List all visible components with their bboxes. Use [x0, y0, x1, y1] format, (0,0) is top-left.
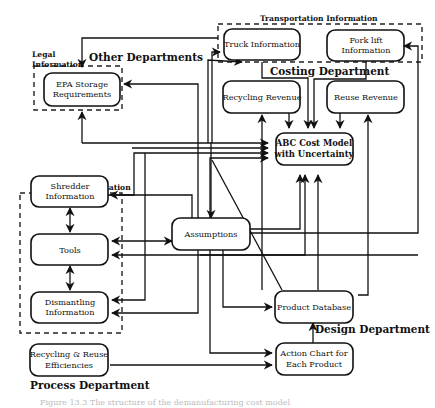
product-database-label: Product Database [277, 302, 351, 312]
node-forklift-information[interactable]: Fork lift Information [327, 30, 404, 61]
action-chart-line2: Each Product [286, 359, 343, 369]
node-epa-storage[interactable]: EPA Storage Requirements [44, 73, 120, 106]
efficiencies-line1: Recycling & Reuse [30, 349, 109, 359]
node-action-chart[interactable]: Action Chart for Each Product [276, 343, 353, 375]
tools-label: Tools [59, 245, 81, 255]
node-assumptions[interactable]: Assumptions [172, 218, 250, 250]
other-departments-label: Other Departments [89, 51, 203, 63]
dismantling-line1: Dismantling [45, 297, 95, 307]
node-abc-cost-model[interactable]: ABC Cost Model with Uncertainty [274, 133, 355, 165]
dismantling-line2: Information [45, 307, 95, 317]
recycling-revenue-label: Recycling Revenue [222, 92, 301, 102]
node-dismantling-information[interactable]: Dismantling Information [31, 292, 108, 323]
forklift-line1: Fork lift [349, 35, 383, 45]
abc-line1: ABC Cost Model [275, 138, 352, 148]
node-recycling-reuse-efficiencies[interactable]: Recycling & Reuse Efficiencies [30, 344, 109, 376]
process-department-label: Process Department [30, 379, 150, 391]
costing-department-label: Costing Department [270, 65, 389, 77]
edge-assumptions-dismantling [112, 250, 198, 313]
edge-abc-dismantling [112, 153, 145, 300]
epa-line2: Requirements [53, 89, 111, 99]
legal-information-label: Legal Information [32, 50, 84, 69]
node-shredder-information[interactable]: Shredder Information [31, 176, 108, 207]
shredder-line2: Information [45, 191, 95, 201]
node-truck-information[interactable]: Truck Information [224, 29, 301, 60]
transportation-information-label: Transportation Information [260, 14, 378, 23]
node-reuse-revenue[interactable]: Reuse Revenue [327, 81, 404, 113]
abc-line2: with Uncertainty [274, 149, 355, 159]
diagram-canvas: Legal Information Transportation Informa… [0, 0, 435, 408]
truck-line1: Truck Information [224, 39, 301, 49]
shredder-line1: Shredder [51, 181, 90, 191]
node-recycling-revenue[interactable]: Recycling Revenue [222, 81, 301, 113]
node-product-database[interactable]: Product Database [275, 291, 353, 323]
node-tools[interactable]: Tools [31, 234, 108, 265]
efficiencies-line2: Efficiencies [45, 360, 93, 370]
action-chart-line1: Action Chart for [279, 348, 347, 358]
figure-caption: Figure 13.3 The structure of the demanuf… [40, 398, 291, 407]
legal-label-line2: Information [32, 60, 84, 69]
edge-productdb-reuse [358, 115, 368, 295]
reuse-revenue-label: Reuse Revenue [334, 92, 398, 102]
legal-label-line1: Legal [32, 50, 55, 59]
edge-shredder-abc-2 [108, 153, 268, 195]
design-department-label: Design Department [315, 323, 430, 335]
assumptions-label: Assumptions [184, 229, 238, 239]
epa-line1: EPA Storage [56, 79, 108, 89]
forklift-line2: Information [341, 45, 391, 55]
edge-assumptions-actionchart [210, 250, 272, 353]
edge-abc-truck [212, 52, 220, 143]
